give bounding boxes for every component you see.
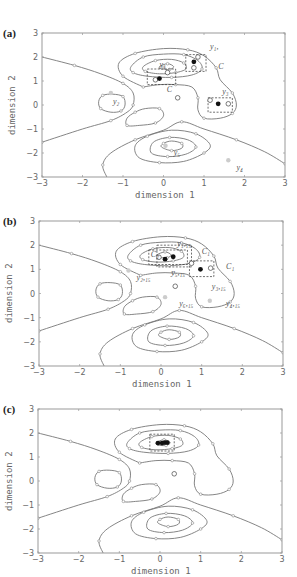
contour-marker (106, 495, 109, 498)
contour-marker (118, 471, 121, 474)
contour-marker (197, 444, 200, 447)
contour-marker (130, 428, 133, 431)
contour-marker (228, 468, 231, 471)
contour-marker (140, 446, 143, 449)
contour-marker (151, 435, 154, 438)
x-tick-label: 0 (157, 555, 162, 564)
axes-frame (38, 409, 282, 553)
filled-point (165, 440, 170, 445)
contour-marker (151, 498, 154, 501)
y-tick-label: 2 (29, 429, 34, 438)
contour-marker (199, 528, 202, 531)
x-tick-label: 1 (198, 555, 203, 564)
contour-marker (118, 458, 121, 461)
contour-outer-left-boundary (38, 433, 131, 518)
contour-marker (122, 500, 125, 503)
contour-marker (191, 522, 194, 525)
contour-lower-outer (131, 506, 207, 539)
contour-marker (177, 518, 180, 521)
x-tick-label: 3 (279, 555, 284, 564)
contour-marker (130, 487, 133, 490)
plot-area (37, 424, 284, 553)
contour-marker (183, 425, 186, 428)
contour-marker (155, 483, 158, 486)
contour-marker (142, 511, 145, 514)
contour-marker (191, 509, 194, 512)
contour-marker (199, 493, 202, 496)
contour-plot: −3−2−10123−3−2−10123 (0, 0, 297, 577)
x-tick-label: −1 (113, 555, 125, 564)
contour-marker (165, 512, 168, 515)
contour-marker (128, 447, 131, 450)
contour-marker (179, 429, 182, 432)
open-point (172, 472, 177, 477)
contour-marker (171, 447, 174, 450)
y-tick-label: −3 (22, 549, 34, 558)
contour-marker (118, 451, 121, 454)
contour-marker (177, 497, 180, 500)
y-tick-label: −1 (22, 501, 34, 510)
y-tick-label: 1 (29, 453, 34, 462)
contour-marker (128, 480, 131, 483)
y-tick-label: 3 (29, 405, 34, 414)
x-tick-label: 2 (239, 555, 244, 564)
y-tick-label: 0 (29, 477, 34, 486)
contour-marker (171, 459, 174, 462)
contour-marker (116, 486, 119, 489)
contour-marker (159, 518, 162, 521)
contour-marker (138, 432, 141, 435)
contour-marker (98, 470, 101, 473)
contour-marker (138, 462, 141, 465)
contour-upper-outer (114, 424, 233, 495)
contour-lower-mid (147, 513, 193, 532)
panel-c: (c)dimension 1dimension 2−3−2−10123−3−2−… (0, 0, 297, 577)
contour-marker (98, 540, 101, 543)
contour-marker (167, 452, 170, 455)
contour-marker (212, 443, 215, 446)
contour-marker (167, 525, 170, 528)
y-tick-label: −2 (22, 525, 34, 534)
contour-marker (163, 531, 166, 534)
contour-marker (232, 515, 235, 518)
contour-marker (96, 483, 99, 486)
contour-marker (179, 438, 182, 441)
contour-marker (130, 515, 133, 518)
contour-marker (193, 473, 196, 476)
contour-marker (155, 537, 158, 540)
contour-center-left-island (122, 484, 160, 502)
contour-marker (228, 488, 231, 491)
x-tick-label: −2 (73, 555, 85, 564)
contour-marker (69, 440, 72, 443)
